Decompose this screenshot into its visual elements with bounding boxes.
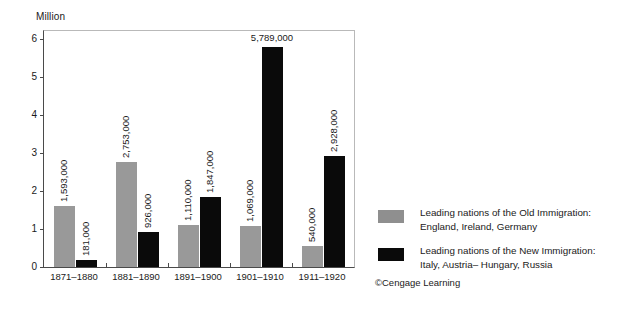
legend-swatch-old xyxy=(378,210,404,223)
y-tick-label: 2 xyxy=(25,184,37,197)
bar-value-label: 1,069,000 xyxy=(245,180,255,222)
plot-area: 01234561,593,000181,0002,753,000926,0001… xyxy=(43,30,355,268)
plot-inner: 01234561,593,000181,0002,753,000926,0001… xyxy=(44,31,354,267)
legend-item: Leading nations of the Old Immigration:E… xyxy=(378,206,614,236)
y-tick-mark xyxy=(40,191,44,192)
legend-label-line1: Leading nations of the Old Immigration: xyxy=(420,207,591,218)
y-axis-unit-label: Million xyxy=(36,11,65,22)
y-tick-label: 5 xyxy=(25,70,37,83)
y-tick-mark xyxy=(40,39,44,40)
x-axis-separator xyxy=(106,263,107,267)
bar-new-immigration xyxy=(262,47,283,267)
x-axis-label: 1871–1880 xyxy=(43,271,105,282)
bar-value-label: 926,000 xyxy=(143,193,153,227)
bar-value-label: 2,753,000 xyxy=(121,116,131,158)
chart-figure: Million 01234561,593,000181,0002,753,000… xyxy=(0,0,619,317)
bar-new-immigration xyxy=(324,156,345,267)
x-axis-separator xyxy=(292,263,293,267)
legend-label: Leading nations of the Old Immigration:E… xyxy=(420,206,614,233)
copyright-credit: ©Cengage Learning xyxy=(375,277,460,288)
y-tick-label: 1 xyxy=(25,222,37,235)
legend-item: Leading nations of the New Immigration:I… xyxy=(378,244,614,274)
bar-old-immigration xyxy=(178,225,199,267)
y-tick-label: 0 xyxy=(25,260,37,273)
y-tick-mark xyxy=(40,115,44,116)
bar-old-immigration xyxy=(240,226,261,267)
bar-value-label: 1,110,000 xyxy=(183,179,193,221)
x-axis-label: 1911–1920 xyxy=(291,271,353,282)
bar-value-label: 1,593,000 xyxy=(59,160,69,202)
x-axis-separator xyxy=(230,263,231,267)
bar-new-immigration xyxy=(200,197,221,267)
bar-old-immigration xyxy=(302,246,323,267)
chart-legend: Leading nations of the Old Immigration:E… xyxy=(378,206,614,282)
bar-value-label: 181,000 xyxy=(81,222,91,256)
y-tick-label: 3 xyxy=(25,146,37,159)
legend-label: Leading nations of the New Immigration:I… xyxy=(420,244,614,271)
bar-value-label: 1,847,000 xyxy=(205,150,215,192)
y-tick-label: 4 xyxy=(25,108,37,121)
bar-old-immigration xyxy=(54,206,75,267)
y-tick-mark xyxy=(40,229,44,230)
bar-new-immigration xyxy=(76,260,97,267)
y-tick-mark xyxy=(40,77,44,78)
bar-new-immigration xyxy=(138,232,159,267)
bar-value-label: 2,928,000 xyxy=(329,109,339,151)
y-tick-mark xyxy=(40,267,44,268)
x-axis-separator xyxy=(168,263,169,267)
legend-label-line1: Leading nations of the New Immigration: xyxy=(420,245,595,256)
legend-swatch-new xyxy=(378,248,404,261)
x-axis-label: 1881–1890 xyxy=(105,271,167,282)
legend-label-line2: England, Ireland, Germany xyxy=(420,220,614,234)
y-tick-label: 6 xyxy=(25,32,37,45)
bar-old-immigration xyxy=(116,162,137,267)
bar-value-label: 540,000 xyxy=(307,208,317,242)
bar-value-label: 5,789,000 xyxy=(251,33,293,43)
x-axis-label: 1891–1900 xyxy=(167,271,229,282)
legend-label-line2: Italy, Austria– Hungary, Russia xyxy=(420,258,614,272)
x-axis-label: 1901–1910 xyxy=(229,271,291,282)
y-tick-mark xyxy=(40,153,44,154)
